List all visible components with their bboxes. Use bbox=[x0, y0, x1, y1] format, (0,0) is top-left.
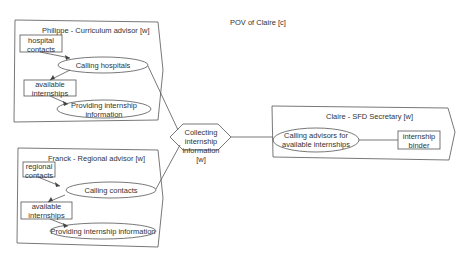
diagram-canvas bbox=[0, 0, 461, 264]
calling-advisors-label: Calling advisors for available internshi… bbox=[278, 131, 354, 149]
diagram-title: POV of Claire [c] bbox=[230, 18, 286, 27]
providing-info-label-2: Providing internship information bbox=[50, 227, 156, 236]
claire-label: Claire - SFD Secretary [w] bbox=[326, 112, 413, 121]
calling-contacts-label: Calling contacts bbox=[68, 186, 154, 195]
collecting-info-label: Collecting internship information [w] bbox=[180, 128, 222, 164]
calling-hospitals-label: Calling hospitals bbox=[60, 61, 146, 70]
providing-info-label-1: Providing internship information bbox=[62, 101, 146, 119]
regional-contacts-label: regional contacts bbox=[24, 162, 54, 180]
available-internships-label-2: available internships bbox=[22, 202, 71, 220]
arrowhead bbox=[55, 182, 60, 187]
philippe-label: Philippe - Curriculum advisor [w] bbox=[42, 26, 150, 35]
franck-label: Franck - Regional advisor [w] bbox=[48, 154, 145, 163]
internship-binder-label: internship binder bbox=[400, 132, 438, 150]
hospital-contacts-label: hospital contacts bbox=[22, 36, 60, 54]
available-internships-label-1: available internships bbox=[26, 80, 74, 98]
